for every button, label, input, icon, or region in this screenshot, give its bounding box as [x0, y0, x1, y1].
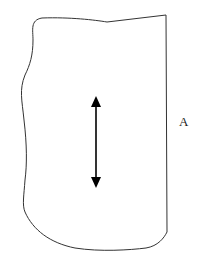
diagram-canvas [0, 0, 198, 263]
double-arrow-icon [91, 96, 101, 188]
outline-shape [21, 15, 167, 250]
label-a: A [179, 115, 188, 129]
